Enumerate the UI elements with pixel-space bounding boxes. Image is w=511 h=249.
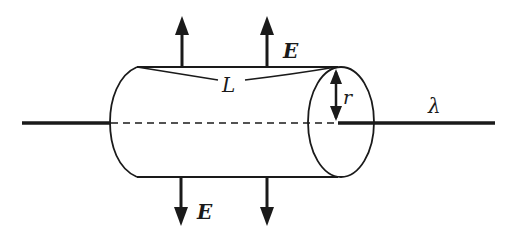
gaussian-cylinder-diagram: L r λ E E — [0, 0, 511, 249]
field-arrowhead-down-1 — [174, 207, 188, 226]
cylinder-left-cap — [110, 67, 137, 177]
length-label: L — [221, 73, 235, 97]
length-brace-left — [137, 67, 218, 80]
lambda-label: λ — [427, 94, 441, 118]
field-arrowhead-up-2 — [260, 16, 274, 35]
field-arrowhead-up-1 — [175, 16, 189, 35]
field-label-top: E — [282, 39, 299, 63]
field-arrowhead-down-2 — [260, 207, 274, 226]
field-label-bottom: E — [196, 200, 213, 224]
radius-label: r — [343, 86, 354, 108]
radius-arrowhead-down — [330, 106, 342, 121]
length-brace-right — [245, 67, 336, 80]
radius-arrowhead-up — [330, 69, 342, 84]
